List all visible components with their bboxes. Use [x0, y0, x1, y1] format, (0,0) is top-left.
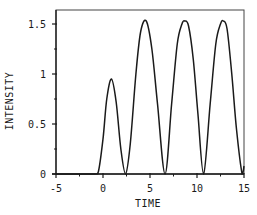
- data-series: [56, 20, 244, 174]
- y-tick-label: 1: [40, 69, 46, 80]
- x-tick-label: -5: [50, 183, 62, 194]
- x-axis-label: TIME: [135, 198, 161, 209]
- y-axis-ticks: 00.511.5: [28, 19, 57, 180]
- y-axis-label: INTENSITY: [4, 72, 15, 131]
- x-tick-label: 10: [191, 183, 203, 194]
- x-axis-ticks: -5051015: [50, 173, 250, 194]
- intensity-time-chart: 00.511.5 -5051015 TIME INTENSITY: [0, 0, 257, 215]
- x-tick-label: 0: [100, 183, 106, 194]
- intensity-curve: [56, 20, 244, 174]
- x-tick-label: 15: [238, 183, 250, 194]
- y-tick-label: 0: [40, 169, 46, 180]
- x-tick-label: 5: [147, 183, 153, 194]
- y-tick-label: 1.5: [28, 19, 46, 30]
- plot-frame: [52, 10, 244, 174]
- y-tick-label: 0.5: [28, 119, 46, 130]
